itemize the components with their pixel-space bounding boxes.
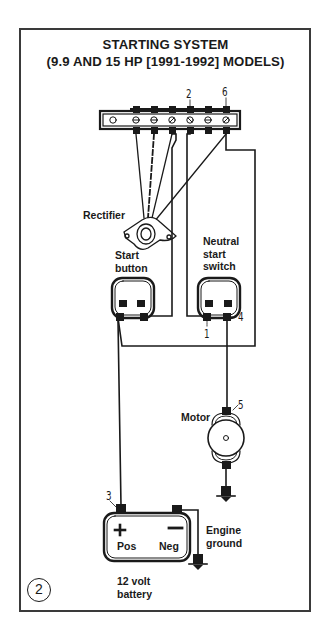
motor-label: Motor [181,411,210,424]
start-button-label: Start button [115,249,148,274]
callout-4: 4 [238,309,244,324]
neutral-start-switch-label: Neutral start switch [203,235,239,273]
terminal-strip [100,98,240,134]
figure-number-badge: 2 [27,578,51,602]
engine-ground-label: Engine ground [206,524,242,549]
engine-ground-symbol [189,554,207,570]
battery-neg-label: Neg [159,540,179,553]
neutral-start-switch [198,278,240,326]
wires [118,134,255,556]
callout-1: 1 [204,326,210,341]
rectifier-leads [136,134,226,222]
rectifier-label: Rectifier [83,209,125,222]
callout-2: 2 [186,86,192,101]
battery-pos-label: Pos [117,540,136,553]
start-button [112,278,154,321]
starter-motor [208,405,244,469]
callout-5: 5 [238,397,244,412]
battery-label: 12 volt battery [117,575,152,600]
callout-6: 6 [222,84,228,99]
callout-3: 3 [106,488,112,503]
rectifier [124,217,176,249]
motor-ground [217,486,235,502]
